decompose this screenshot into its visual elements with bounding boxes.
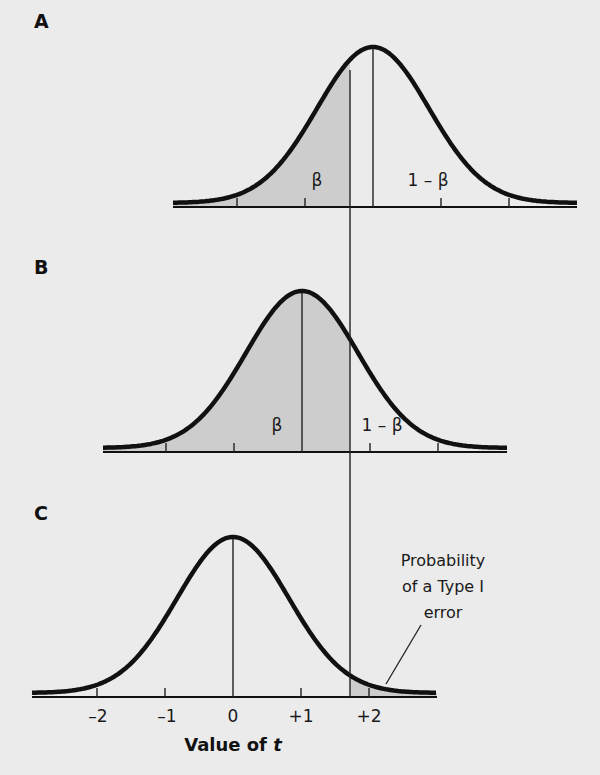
annotation-line-1: Probability bbox=[401, 548, 486, 574]
panel-label-c: C bbox=[34, 502, 48, 524]
tick-label-plus-1: +1 bbox=[288, 706, 313, 726]
tick-label-0: 0 bbox=[228, 706, 239, 726]
tick-label-minus-2: –2 bbox=[88, 706, 107, 726]
panel-b-power-label: 1 – β bbox=[362, 415, 403, 435]
panel-a-shaded-region bbox=[173, 60, 350, 207]
type-one-error-annotation: Probability of a Type I error bbox=[401, 548, 486, 626]
panel-a bbox=[173, 47, 577, 207]
tick-label-minus-1: –1 bbox=[157, 706, 176, 726]
panel-label-b: B bbox=[34, 256, 48, 278]
tick-label-plus-2: +2 bbox=[356, 706, 381, 726]
panel-a-distribution-curve bbox=[173, 47, 577, 203]
x-axis-title-variable: t bbox=[273, 734, 282, 755]
annotation-line-2: of a Type I bbox=[401, 574, 486, 600]
annotation-leader-line bbox=[386, 625, 421, 684]
panel-c-distribution-curve bbox=[32, 537, 436, 693]
x-axis-title-text: Value of bbox=[184, 734, 273, 755]
panel-label-a: A bbox=[34, 10, 49, 32]
panel-a-power-label: 1 – β bbox=[408, 170, 449, 190]
panel-c bbox=[32, 537, 437, 697]
x-axis-title: Value of t bbox=[184, 734, 282, 755]
panel-b-beta-label: β bbox=[272, 415, 283, 435]
panel-a-beta-label: β bbox=[312, 170, 323, 190]
power-diagram bbox=[0, 0, 600, 775]
annotation-line-3: error bbox=[401, 600, 486, 626]
panel-b-shaded-region bbox=[103, 291, 350, 452]
panel-b bbox=[103, 291, 507, 452]
